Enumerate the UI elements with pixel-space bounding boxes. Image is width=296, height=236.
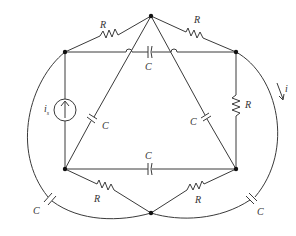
label-c-left-diag: C bbox=[102, 120, 109, 131]
label-c-right-arc: C bbox=[257, 206, 264, 217]
node-top-left bbox=[63, 50, 67, 54]
current-arrow-icon bbox=[277, 83, 284, 100]
capacitor-right-diag bbox=[151, 16, 236, 169]
capacitor-right-arc bbox=[151, 52, 278, 218]
capacitor-left-diag bbox=[65, 16, 151, 169]
label-loop-current: i bbox=[285, 83, 288, 94]
label-r-top-right: R bbox=[193, 14, 200, 25]
label-r-bottom-left: R bbox=[93, 193, 100, 204]
resistor-bottom-right bbox=[151, 169, 236, 213]
resistor-bottom-left bbox=[65, 169, 151, 213]
label-c-bottom-horizontal: C bbox=[145, 150, 152, 161]
label-source-current: is bbox=[44, 103, 50, 116]
node-bottom-left bbox=[63, 167, 67, 171]
capacitor-bottom-horizontal bbox=[65, 163, 236, 175]
label-r-bottom-right: R bbox=[194, 194, 201, 205]
capacitor-left-arc bbox=[27, 52, 151, 219]
label-r-right-vertical: R bbox=[244, 99, 251, 110]
resistor-right-vertical bbox=[232, 52, 240, 169]
label-r-top-left: R bbox=[99, 19, 106, 30]
resistor-top-left bbox=[65, 16, 151, 52]
label-c-top-horizontal: C bbox=[145, 61, 152, 72]
capacitor-top-horizontal bbox=[65, 46, 236, 58]
circuit-diagram: R R C C C R C bbox=[0, 0, 296, 236]
label-c-right-diag: C bbox=[190, 116, 197, 127]
node-apex-bottom bbox=[149, 211, 153, 215]
node-apex-top bbox=[149, 14, 153, 18]
node-top-right bbox=[234, 50, 238, 54]
label-c-left-arc: C bbox=[33, 205, 40, 216]
node-bottom-right bbox=[234, 167, 238, 171]
current-source bbox=[54, 52, 76, 169]
